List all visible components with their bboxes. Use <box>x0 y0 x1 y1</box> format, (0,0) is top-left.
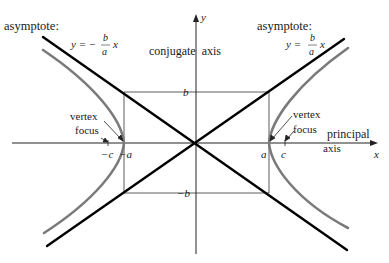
x-axis-label: x <box>373 148 379 160</box>
focus-right-label: focus <box>293 123 317 135</box>
svg-text:asymptote:: asymptote: <box>257 19 312 33</box>
svg-text:b: b <box>310 32 315 43</box>
neg-b-label: −b <box>177 187 190 199</box>
conjugate-axis-label: conjugate axis <box>149 44 221 58</box>
hyperbola-diagram: asymptote: y = − b a x asymptote: y = b … <box>0 0 389 263</box>
svg-text:x: x <box>112 38 118 50</box>
svg-text:y =: y = <box>285 38 301 50</box>
svg-text:b: b <box>103 32 108 43</box>
a-label: a <box>261 148 267 160</box>
svg-text:a: a <box>102 46 107 57</box>
svg-text:y = −: y = − <box>70 38 96 50</box>
vertex-right-label: vertex <box>293 108 321 120</box>
vertex-left-label: vertex <box>70 110 98 122</box>
asymptote-left-label: asymptote: y = − b a x <box>4 19 118 57</box>
svg-text:asymptote:: asymptote: <box>4 19 59 33</box>
y-axis-label: y <box>200 11 206 23</box>
b-label: b <box>183 86 189 98</box>
principal-label: principal <box>327 127 370 141</box>
hyperbola-left-branch <box>43 50 124 233</box>
svg-text:a: a <box>309 46 314 57</box>
neg-a-label: −a <box>119 148 132 160</box>
label-pointers <box>101 116 294 142</box>
svg-text:x: x <box>319 38 325 50</box>
focus-left-label: focus <box>75 124 99 136</box>
c-label: c <box>281 148 286 160</box>
asymptote-right-label: asymptote: y = b a x <box>257 19 325 57</box>
axis-label: axis <box>323 142 341 154</box>
neg-c-label: −c <box>101 148 113 160</box>
